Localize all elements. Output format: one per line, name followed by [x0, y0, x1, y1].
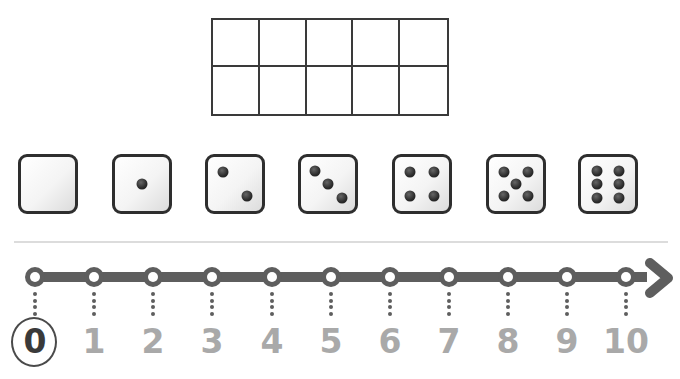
die-pip	[241, 190, 252, 201]
ten-frame-cell	[400, 67, 447, 114]
tick-mark-9	[557, 267, 577, 287]
die-face-2	[205, 154, 265, 214]
separator-line	[14, 241, 668, 243]
tick-mark-10	[616, 267, 636, 287]
die-pip	[498, 191, 509, 202]
tick-mark-0	[25, 267, 45, 287]
tick-mark-2	[143, 267, 163, 287]
number-label-0: 0	[10, 322, 60, 362]
die-pip	[511, 179, 522, 190]
dotted-guide	[624, 292, 628, 318]
die-pip	[523, 191, 534, 202]
die-pip	[428, 167, 439, 178]
arrow-right-icon	[636, 258, 676, 298]
number-label-4: 4	[247, 322, 297, 362]
dotted-guide	[92, 292, 96, 318]
ten-frame-cell	[307, 20, 354, 67]
die-pip	[592, 179, 603, 190]
die-face-0	[18, 154, 78, 214]
die-pip	[336, 192, 347, 203]
number-label-7: 7	[424, 322, 474, 362]
die-pip	[323, 179, 334, 190]
tick-mark-6	[380, 267, 400, 287]
die-pip	[428, 190, 439, 201]
die-pip	[592, 192, 603, 203]
dotted-guide	[447, 292, 451, 318]
dotted-guide	[506, 292, 510, 318]
tick-mark-7	[439, 267, 459, 287]
dotted-guide	[388, 292, 392, 318]
die-face-4	[392, 154, 452, 214]
die-face-3	[298, 154, 358, 214]
number-label-2: 2	[128, 322, 178, 362]
dotted-guide	[329, 292, 333, 318]
die-pip	[137, 179, 148, 190]
ten-frame-cell	[353, 67, 400, 114]
tick-mark-4	[262, 267, 282, 287]
ten-frame-cell	[400, 20, 447, 67]
die-pip	[613, 179, 624, 190]
tick-mark-1	[84, 267, 104, 287]
ten-frame-cell	[213, 67, 260, 114]
die-pip	[613, 165, 624, 176]
die-pip	[523, 166, 534, 177]
dotted-guide	[151, 292, 155, 318]
number-label-5: 5	[306, 322, 356, 362]
die-pip	[613, 192, 624, 203]
die-pip	[592, 165, 603, 176]
die-pip	[498, 166, 509, 177]
number-label-3: 3	[187, 322, 237, 362]
die-face-5	[486, 154, 546, 214]
die-face-6	[578, 154, 638, 214]
dotted-guide	[33, 292, 37, 318]
tick-mark-5	[321, 267, 341, 287]
tick-mark-8	[498, 267, 518, 287]
dotted-guide	[270, 292, 274, 318]
dotted-guide	[565, 292, 569, 318]
ten-frame-cell	[353, 20, 400, 67]
die-pip	[218, 167, 229, 178]
die-pip	[405, 167, 416, 178]
number-label-1: 1	[69, 322, 119, 362]
die-face-1	[112, 154, 172, 214]
ten-frame-cell	[260, 20, 307, 67]
ten-frame-cell	[307, 67, 354, 114]
die-pip	[405, 190, 416, 201]
number-label-10: 10	[601, 322, 651, 362]
ten-frame-cell	[260, 67, 307, 114]
number-line-bar	[35, 272, 647, 282]
tick-mark-3	[202, 267, 222, 287]
die-pip	[309, 165, 320, 176]
ten-frame	[211, 18, 449, 116]
number-label-6: 6	[365, 322, 415, 362]
number-label-9: 9	[542, 322, 592, 362]
number-label-8: 8	[483, 322, 533, 362]
dotted-guide	[210, 292, 214, 318]
ten-frame-cell	[213, 20, 260, 67]
